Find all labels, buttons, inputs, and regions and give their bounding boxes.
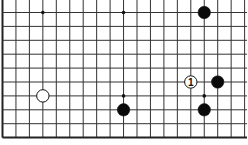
black-stone-icon xyxy=(198,6,210,18)
star-point-icon xyxy=(122,11,126,15)
black-stone xyxy=(117,104,129,116)
black-stone-icon xyxy=(117,104,129,116)
white-stone: 1 xyxy=(185,76,197,88)
black-stone xyxy=(198,104,210,116)
star-point-icon xyxy=(41,11,45,15)
go-board-svg: 1 xyxy=(0,0,247,145)
go-board-diagram: 1 xyxy=(0,0,247,145)
black-stone-icon xyxy=(212,76,224,88)
white-stone-icon xyxy=(37,90,49,102)
black-stone xyxy=(212,76,224,88)
white-stone xyxy=(37,90,49,102)
grid-lines xyxy=(3,0,248,138)
star-point-icon xyxy=(122,94,126,98)
black-stone xyxy=(198,6,210,18)
move-number-label: 1 xyxy=(188,77,194,88)
stones: 1 xyxy=(37,6,224,116)
black-stone-icon xyxy=(198,104,210,116)
star-point-icon xyxy=(202,94,206,98)
